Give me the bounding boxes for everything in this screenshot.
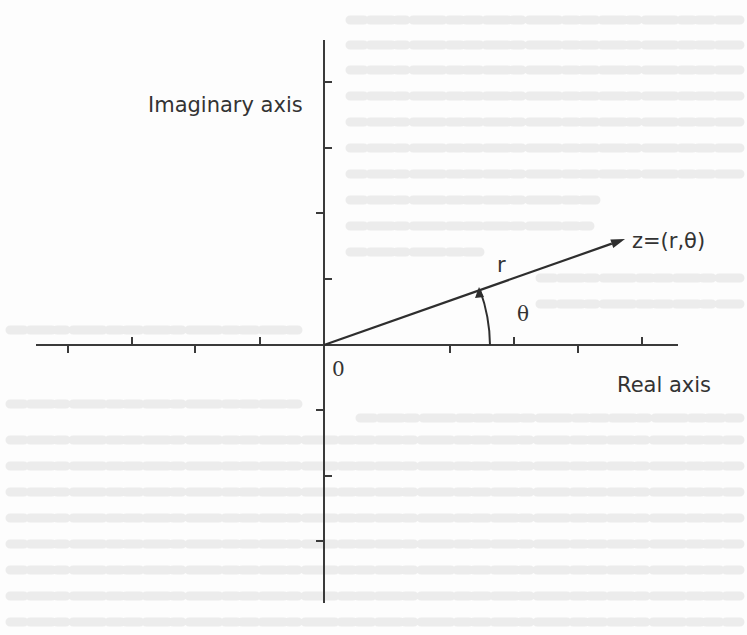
angle-theta-arc xyxy=(480,290,490,345)
diagram-canvas: Imaginary axis Real axis 0 z=(r,θ) r θ xyxy=(0,0,747,635)
origin-label: 0 xyxy=(332,357,345,381)
bleed-through-texture xyxy=(10,20,740,622)
vector-z-label: z=(r,θ) xyxy=(632,229,705,253)
magnitude-r-label: r xyxy=(497,253,506,277)
vector-arrowhead-icon xyxy=(610,239,625,248)
imaginary-axis-label: Imaginary axis xyxy=(148,93,303,117)
vector-z-line xyxy=(324,244,612,345)
real-axis-label: Real axis xyxy=(617,373,711,397)
angle-theta-label: θ xyxy=(517,302,529,326)
complex-plane-figure: Imaginary axis Real axis 0 z=(r,θ) r θ xyxy=(0,0,747,635)
